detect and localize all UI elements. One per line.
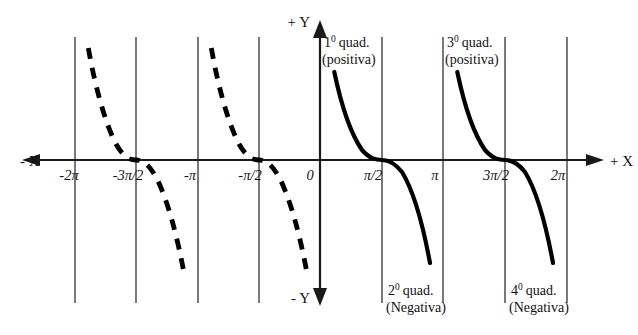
- tick-label-minus-3pi-2: -3π/2: [113, 167, 144, 183]
- tick-label-pi-2: π/2: [364, 167, 383, 183]
- q3-word: quad.: [462, 35, 493, 50]
- q2-superscript: 0: [395, 282, 400, 292]
- q2-word: quad.: [403, 283, 434, 298]
- tick-label-zero: 0: [306, 167, 314, 183]
- q3-sign: (positiva): [445, 52, 499, 68]
- q1-ordinal: 1: [324, 35, 331, 50]
- graph-canvas: -2π -3π/2 -π -π/2 0 π/2 π 3π/2 2π - X + …: [0, 0, 638, 335]
- annotation-1st-quadrant: 10quad. (positiva): [322, 34, 376, 68]
- x-axis-positive-label: + X: [610, 153, 633, 169]
- y-axis-negative-label: - Y: [291, 290, 310, 306]
- tick-label-minus-pi: -π: [184, 167, 197, 183]
- quadrant-annotations: 10quad. (positiva) 30quad. (positiva) 20…: [322, 34, 569, 316]
- q1-word: quad.: [339, 35, 370, 50]
- q1-sign: (positiva): [322, 52, 376, 68]
- tick-label-3pi-2: 3π/2: [482, 167, 509, 183]
- q4-ordinal: 4: [511, 283, 518, 298]
- annotation-3rd-quadrant: 30quad. (positiva): [445, 34, 499, 68]
- tick-label-minus-pi-2: -π/2: [238, 167, 261, 183]
- y-axis-positive-label: + Y: [288, 14, 311, 30]
- x-axis-negative-label: - X: [20, 153, 40, 169]
- tick-label-minus-2pi: -2π: [59, 167, 79, 183]
- q1-superscript: 0: [331, 34, 336, 44]
- q4-sign: (Negativa): [509, 300, 569, 316]
- x-tick-labels: -2π -3π/2 -π -π/2 0 π/2 π 3π/2 2π: [59, 167, 566, 183]
- y-axis-down-arrow: [313, 288, 327, 306]
- q2-ordinal: 2: [388, 283, 395, 298]
- svg-text:40quad.: 40quad.: [511, 282, 556, 298]
- annotation-2nd-quadrant: 20quad. (Negativa): [386, 282, 446, 316]
- q4-superscript: 0: [518, 282, 523, 292]
- q3-ordinal: 3: [447, 35, 454, 50]
- tick-label-pi: π: [431, 167, 439, 183]
- q3-superscript: 0: [454, 34, 459, 44]
- cotangent-graph-figure: -2π -3π/2 -π -π/2 0 π/2 π 3π/2 2π - X + …: [0, 0, 638, 335]
- svg-text:30quad.: 30quad.: [447, 34, 492, 50]
- svg-text:20quad.: 20quad.: [388, 282, 433, 298]
- tick-label-2pi: 2π: [551, 167, 566, 183]
- x-axis-right-arrow: [586, 154, 604, 166]
- q4-word: quad.: [526, 283, 557, 298]
- q2-sign: (Negativa): [386, 300, 446, 316]
- annotation-4th-quadrant: 40quad. (Negativa): [509, 282, 569, 316]
- svg-text:10quad.: 10quad.: [324, 34, 369, 50]
